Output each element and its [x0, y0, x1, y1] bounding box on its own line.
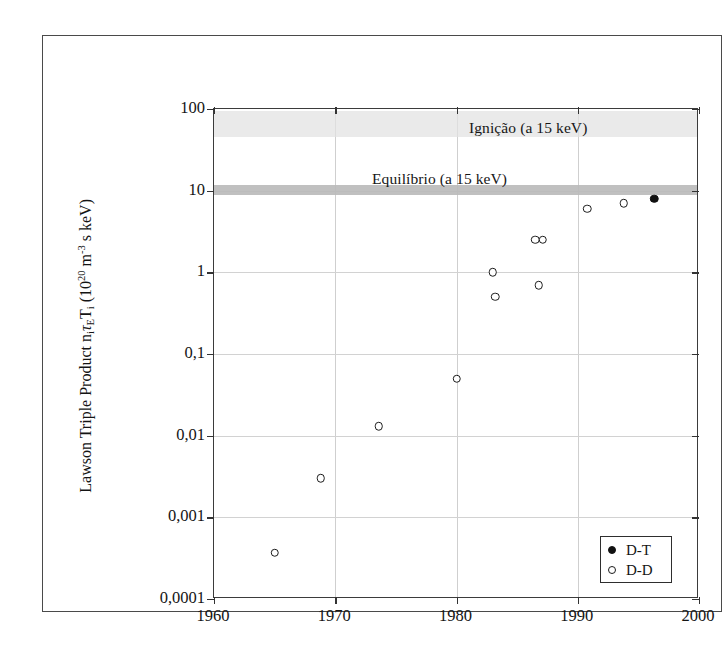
y-tick-label: 0,0001	[160, 588, 205, 608]
horizontal-gridline	[214, 354, 697, 355]
data-point-d-d	[583, 205, 592, 214]
data-point-d-t	[650, 194, 659, 203]
legend-label: D-T	[626, 542, 651, 559]
vertical-gridline	[578, 109, 579, 597]
data-point-d-d	[620, 199, 629, 208]
y-tick-mark	[207, 272, 214, 273]
legend-marker-icon	[608, 546, 620, 554]
y-tick-label: 0,1	[184, 343, 205, 363]
x-tick-mark	[699, 597, 700, 604]
x-tick-label: 1980	[439, 606, 472, 626]
x-tick-label: 1970	[318, 606, 351, 626]
figure-frame: Lawson Triple Product niτETi (1020 m-3 s…	[42, 35, 722, 612]
y-tick-mark-right	[692, 109, 699, 110]
x-tick-mark	[335, 597, 336, 604]
y-tick-mark	[207, 109, 214, 110]
x-tick-mark-top	[457, 107, 458, 114]
legend-box: D-TD-D	[600, 536, 672, 583]
data-point-d-d	[452, 374, 461, 383]
legend-dot	[608, 566, 616, 574]
data-point-d-d	[489, 268, 498, 277]
y-tick-label: 1	[197, 261, 205, 281]
y-tick-label: 0,01	[176, 425, 205, 445]
x-tick-mark	[214, 597, 215, 604]
x-tick-label: 2000	[682, 606, 715, 626]
legend-entry: D-D	[608, 560, 671, 580]
x-tick-mark	[578, 597, 579, 604]
x-tick-label: 1960	[197, 606, 230, 626]
y-tick-mark	[207, 191, 214, 192]
data-point-d-d	[491, 293, 500, 302]
y-tick-mark	[207, 599, 214, 600]
x-tick-mark-top	[578, 107, 579, 114]
equilibrium-label: Equilíbrio (a 15 keV)	[372, 170, 507, 188]
legend-marker-icon	[608, 566, 620, 574]
x-axis-tick-labels: 19601970198019902000	[213, 606, 698, 632]
x-tick-mark-top	[335, 107, 336, 114]
ignition-band	[214, 111, 697, 138]
legend-entry: D-T	[608, 540, 671, 560]
y-tick-mark	[207, 436, 214, 437]
x-tick-label: 1990	[560, 606, 593, 626]
plot-area: Ignição (a 15 keV)Equilíbrio (a 15 keV)	[213, 108, 698, 598]
horizontal-gridline	[214, 436, 697, 437]
legend-label: D-D	[626, 562, 653, 579]
data-point-d-d	[375, 422, 384, 431]
data-point-d-d	[316, 474, 325, 483]
y-tick-mark-right	[692, 354, 699, 355]
y-tick-mark	[207, 517, 214, 518]
x-tick-mark-top	[699, 107, 700, 114]
data-point-d-d	[538, 236, 547, 245]
y-tick-mark-right	[692, 517, 699, 518]
y-tick-mark-right	[692, 599, 699, 600]
plot-inner: Ignição (a 15 keV)Equilíbrio (a 15 keV)	[214, 109, 697, 597]
vertical-gridline	[335, 109, 336, 597]
x-tick-mark-top	[214, 107, 215, 114]
ignition-label: Ignição (a 15 keV)	[469, 119, 587, 137]
horizontal-gridline	[214, 272, 697, 273]
x-tick-mark	[457, 597, 458, 604]
y-tick-mark-right	[692, 272, 699, 273]
horizontal-gridline	[214, 517, 697, 518]
y-tick-mark-right	[692, 436, 699, 437]
data-point-d-d	[535, 281, 544, 290]
y-tick-mark	[207, 354, 214, 355]
data-point-d-d	[270, 548, 279, 557]
y-tick-label: 10	[189, 180, 206, 200]
legend-dot	[608, 546, 616, 554]
y-tick-label: 0,001	[168, 506, 205, 526]
y-axis-tick-labels: 0,00010,0010,010,1110100	[91, 108, 205, 598]
y-tick-label: 100	[180, 98, 205, 118]
y-tick-mark-right	[692, 191, 699, 192]
